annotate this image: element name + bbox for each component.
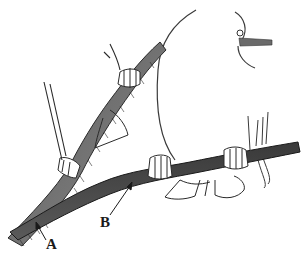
drawing (0, 0, 301, 254)
bird-body-outline (157, 10, 255, 160)
illustration: A B (0, 0, 301, 254)
label-a: A (46, 237, 57, 252)
beak-icon (239, 38, 272, 46)
branch-a (8, 42, 166, 246)
bird-head (237, 30, 272, 46)
under-feathers (165, 176, 244, 199)
label-b: B (100, 215, 110, 230)
